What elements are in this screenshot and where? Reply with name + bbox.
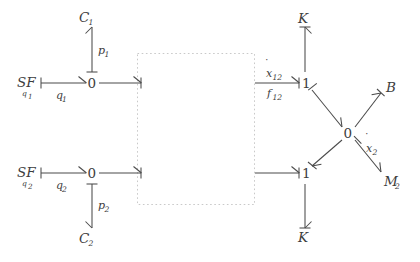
junction-one-top-right: 1 bbox=[302, 75, 311, 91]
half-arrow-zero-bottom-to-c2 bbox=[86, 222, 93, 229]
label-sf1-subscript-index: 1 bbox=[28, 92, 33, 101]
half-arrow-zero-top-to-box bbox=[134, 77, 142, 84]
element-c1-sub: 1 bbox=[89, 18, 94, 27]
label-sf2-subscript: q bbox=[22, 179, 27, 188]
half-arrow-sf1-to-zero-top bbox=[79, 77, 87, 84]
junction-zero-top-left: 0 bbox=[88, 75, 97, 91]
half-arrow-box-to-one-bottom bbox=[292, 167, 300, 174]
element-b: B bbox=[385, 79, 396, 95]
bond-graph-diagram: SF q 1 SF q 2 q 1 q 2 0 0 C 1 C 2 p 1 p … bbox=[0, 0, 420, 262]
half-arrow-sf2-to-zero-bottom bbox=[79, 167, 87, 174]
element-k-bottom: K bbox=[297, 229, 309, 245]
junction-zero-right: 0 bbox=[344, 125, 353, 141]
element-c2-sub: 2 bbox=[88, 239, 94, 248]
causal-stroke-b-bond bbox=[377, 89, 385, 96]
bond-graph-canvas: SF q 1 SF q 2 q 1 q 2 0 0 C 1 C 2 p 1 p … bbox=[0, 0, 420, 262]
bond-label-f12-sub: 12 bbox=[273, 93, 283, 102]
bond-label-p1-sub: 1 bbox=[105, 50, 110, 59]
subsystem-dotted-box bbox=[138, 54, 255, 205]
bond-label-xdot2-sub: 2 bbox=[372, 148, 378, 157]
half-arrow-zero-top-to-c1 bbox=[86, 27, 93, 34]
element-k-top: K bbox=[297, 10, 309, 26]
junction-zero-bottom-left: 0 bbox=[88, 165, 97, 181]
causal-stroke-m2-bond bbox=[354, 136, 361, 143]
bond-one-bottom-to-zero-right bbox=[312, 140, 342, 166]
bond-label-xdot12-sub: 12 bbox=[273, 73, 283, 82]
label-sf1: SF bbox=[17, 74, 36, 90]
half-arrow-one-bottom-to-k-bottom bbox=[305, 222, 312, 229]
bond-label-q2-sub: 2 bbox=[61, 185, 67, 194]
element-m2-sub: 2 bbox=[394, 182, 400, 191]
bond-label-xdot12-accent: ̇ bbox=[266, 58, 268, 61]
label-sf2-subscript-index: 2 bbox=[27, 182, 33, 191]
bond-label-p2-sub: 2 bbox=[104, 205, 110, 214]
half-arrow-box-to-one-top bbox=[292, 77, 300, 84]
label-sf1-subscript: q bbox=[22, 89, 27, 98]
junction-one-bottom-right: 1 bbox=[302, 165, 311, 181]
bond-label-q1-sub: 1 bbox=[62, 95, 67, 104]
bond-label-xdot2-accent: ̇ bbox=[366, 132, 368, 135]
bond-zero-right-to-b bbox=[355, 93, 381, 127]
label-sf2: SF bbox=[17, 164, 36, 180]
bond-one-top-to-zero-right bbox=[312, 90, 342, 127]
half-arrow-zero-bottom-to-box bbox=[134, 167, 142, 174]
half-arrow-one-top-to-k-top bbox=[305, 27, 312, 34]
